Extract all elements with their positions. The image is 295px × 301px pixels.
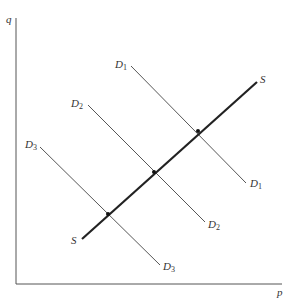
x-axis-label: p — [276, 286, 283, 298]
demand-curve-d3 — [40, 147, 160, 265]
demand-label-d2-end: D2 — [207, 218, 220, 232]
demand-label-d3-end: D3 — [162, 260, 175, 274]
equilibrium-point-d1 — [196, 129, 200, 133]
demand-curve-d2 — [88, 105, 205, 222]
supply-demand-diagram: q p S S D1 D1 D2 D2 D3 D3 — [0, 0, 295, 301]
equilibrium-point-d2 — [152, 170, 156, 174]
demand-label-d2-start: D2 — [70, 97, 83, 111]
demand-label-d1-end: D1 — [249, 177, 262, 191]
y-axis-label: q — [6, 13, 12, 25]
demand-label-d1-start: D1 — [114, 58, 127, 72]
supply-label-end: S — [260, 73, 266, 85]
demand-label-d3-start: D3 — [24, 138, 37, 152]
supply-label-start: S — [71, 234, 77, 246]
equilibrium-point-d3 — [106, 212, 110, 216]
